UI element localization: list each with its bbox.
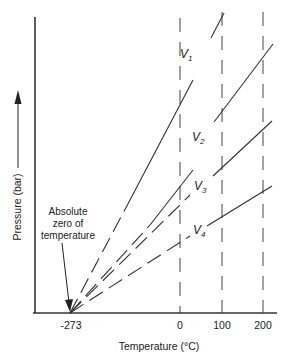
v3-dashed — [70, 195, 190, 313]
label-v4: V4 — [193, 223, 206, 239]
x-tick-100: 100 — [213, 319, 231, 331]
label-v3: V3 — [194, 179, 207, 195]
v4-dashed — [70, 236, 190, 313]
label-v2: V2 — [192, 130, 205, 146]
x-tick-minus273: -273 — [60, 319, 81, 331]
v2-solid-lower — [150, 170, 193, 225]
annotation-line-2: zero of — [53, 218, 84, 229]
annotation-line-3: temperature — [41, 230, 95, 241]
x-tick-200: 200 — [254, 319, 272, 331]
y-axis-label: Pressure (bar) — [11, 173, 23, 240]
annotation-arrow-shaft — [62, 243, 69, 303]
x-tick-0: 0 — [177, 319, 183, 331]
annotation-line-1: Absolute — [49, 206, 88, 217]
v4-solid — [207, 186, 272, 226]
pressure-temperature-diagram: V1 V2 V3 V4 Absolute zero of temperature… — [0, 0, 289, 358]
v2-solid-upper — [214, 44, 273, 122]
extrapolated-segments — [70, 195, 190, 313]
x-axis-label: Temperature (°C) — [119, 340, 200, 352]
label-v1: V1 — [180, 47, 192, 63]
y-axis-arrow-head — [15, 90, 22, 104]
